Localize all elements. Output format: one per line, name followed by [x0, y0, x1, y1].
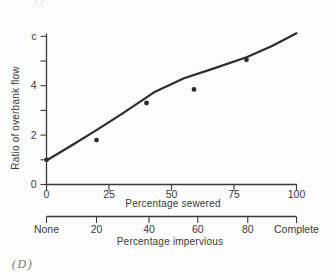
x-tick-label: 100: [288, 188, 306, 200]
secondary-x-tick-label: 20: [91, 223, 103, 235]
trend-line: [47, 33, 297, 160]
panel-label: (D): [12, 257, 33, 272]
scatter-chart: 024c0255075100None20406080Complete Perce…: [0, 0, 335, 279]
secondary-x-tick-label: None: [34, 223, 59, 235]
data-point: [144, 101, 149, 106]
secondary-x-tick-label: 60: [192, 223, 204, 235]
y-tick-label: c: [31, 30, 36, 42]
y-tick-label: 0: [31, 178, 37, 190]
data-point: [192, 87, 197, 92]
secondary-x-axis-title: Percentage impervious: [117, 236, 223, 247]
x-tick-label: 75: [228, 188, 240, 200]
x-tick-label: 25: [103, 188, 115, 200]
secondary-x-tick-label: 80: [242, 223, 254, 235]
chart-figure: ( ) 024c0255075100None20406080Complete P…: [0, 0, 335, 279]
x-axis-title: Percentage sewered: [125, 198, 220, 209]
y-tick-label: 2: [31, 129, 37, 141]
secondary-x-tick-label: 40: [143, 223, 155, 235]
data-point: [94, 138, 99, 143]
secondary-x-tick-label: Complete: [274, 223, 319, 235]
data-point: [244, 57, 249, 62]
y-axis-title: Ratio of overbank flow: [10, 66, 21, 170]
y-tick-label: 4: [31, 79, 37, 91]
x-tick-label: 0: [44, 188, 50, 200]
